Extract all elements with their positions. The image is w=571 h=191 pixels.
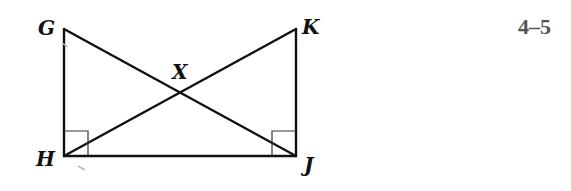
scan-mark (78, 166, 85, 170)
label-k: K (301, 15, 321, 39)
problem-number: 4–5 (518, 14, 551, 39)
geometry-diagram: G H J K X 4–5 (0, 0, 571, 191)
label-j: J (300, 153, 315, 177)
label-x: X (170, 60, 189, 84)
label-g: G (38, 16, 55, 40)
label-h: H (35, 147, 56, 171)
